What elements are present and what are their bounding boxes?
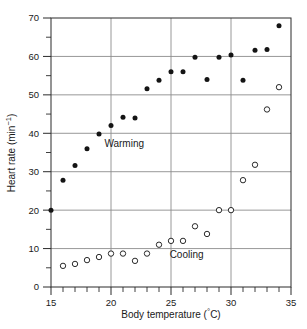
data-point xyxy=(277,23,282,28)
data-point xyxy=(144,251,149,256)
y-tick-label: 20 xyxy=(28,205,39,216)
x-axis-title: Body temperature (°C) xyxy=(121,307,220,321)
data-point xyxy=(216,207,221,212)
data-point xyxy=(229,52,234,57)
data-point xyxy=(205,77,210,82)
x-tick-label: 35 xyxy=(286,297,297,308)
data-point xyxy=(60,263,65,268)
data-point xyxy=(180,238,185,243)
data-point xyxy=(133,115,138,120)
data-point xyxy=(61,178,66,183)
y-axis-tick-labels: 010203040506070 xyxy=(28,12,39,292)
x-tick-label: 25 xyxy=(166,297,177,308)
data-point xyxy=(97,132,102,137)
plot-annotations: WarmingCooling xyxy=(104,138,203,260)
y-tick-label: 10 xyxy=(28,243,39,254)
data-point xyxy=(145,86,150,91)
gridlines-group xyxy=(51,18,291,287)
data-point xyxy=(181,69,186,74)
data-point xyxy=(108,251,113,256)
scatter-chart-figure: 1520253035 010203040506070 WarmingCoolin… xyxy=(0,0,307,329)
y-tick-label: 70 xyxy=(28,12,39,23)
y-tick-label: 40 xyxy=(28,128,39,139)
y-axis-ticks xyxy=(43,18,51,287)
data-point xyxy=(168,238,173,243)
y-axis-title: Heart rate (min−1) xyxy=(4,114,18,193)
data-point xyxy=(96,254,101,259)
data-point xyxy=(265,47,270,52)
y-tick-label: 30 xyxy=(28,166,39,177)
data-point xyxy=(253,48,258,53)
data-point xyxy=(228,207,233,212)
data-point xyxy=(84,257,89,262)
data-point xyxy=(157,78,162,83)
data-point xyxy=(156,242,161,247)
data-point xyxy=(240,177,245,182)
data-point xyxy=(169,69,174,74)
x-axis-ticks xyxy=(51,287,291,295)
data-point xyxy=(192,224,197,229)
data-point xyxy=(241,78,246,83)
annotation-cooling: Cooling xyxy=(170,249,204,260)
data-point xyxy=(276,84,281,89)
data-point xyxy=(72,261,77,266)
data-point xyxy=(121,115,126,120)
x-axis-tick-labels: 1520253035 xyxy=(46,297,297,308)
series-warming-points xyxy=(49,23,282,212)
annotation-warming: Warming xyxy=(104,138,144,149)
data-point xyxy=(204,231,209,236)
data-point xyxy=(120,251,125,256)
y-tick-label: 50 xyxy=(28,89,39,100)
data-point xyxy=(217,55,222,60)
data-point xyxy=(193,55,198,60)
plot-canvas: 1520253035 010203040506070 WarmingCoolin… xyxy=(0,0,307,329)
data-point xyxy=(73,163,78,168)
y-tick-label: 0 xyxy=(34,281,39,292)
data-point xyxy=(85,146,90,151)
x-tick-label: 20 xyxy=(106,297,117,308)
data-point xyxy=(109,123,114,128)
data-point xyxy=(264,107,269,112)
data-point xyxy=(49,208,54,213)
x-tick-label: 30 xyxy=(226,297,237,308)
data-point xyxy=(132,258,137,263)
data-point xyxy=(252,162,257,167)
y-tick-label: 60 xyxy=(28,51,39,62)
x-tick-label: 15 xyxy=(46,297,57,308)
cropped-caption-fragment xyxy=(58,0,298,7)
